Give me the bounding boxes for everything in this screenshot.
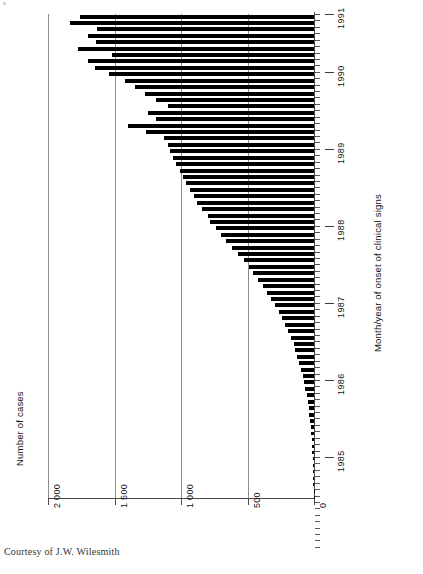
bar <box>297 355 314 359</box>
month-tick <box>315 27 320 28</box>
bar <box>267 291 314 295</box>
value-tick-2000 <box>48 499 49 505</box>
bar <box>295 348 314 352</box>
month-tick <box>315 40 320 41</box>
month-tick <box>315 104 320 105</box>
month-tick <box>315 386 320 387</box>
month-tick <box>315 200 320 201</box>
bar <box>168 104 314 108</box>
month-tick <box>315 33 320 34</box>
month-tick <box>315 438 320 439</box>
bar <box>313 483 314 486</box>
month-tick <box>315 316 320 317</box>
month-tick <box>315 483 320 484</box>
month-tick <box>315 451 320 452</box>
bar <box>95 66 314 70</box>
bar <box>170 149 314 153</box>
bar <box>253 271 314 275</box>
year-mark-1990 <box>325 72 334 73</box>
value-tick-label-500: 500 <box>252 492 262 508</box>
year-mark-1985 <box>325 457 334 458</box>
month-tick <box>315 393 320 394</box>
month-tick <box>315 534 320 535</box>
month-tick <box>315 296 320 297</box>
month-tick <box>315 175 320 176</box>
month-tick <box>315 521 320 522</box>
bar <box>312 445 314 448</box>
month-tick <box>315 20 320 21</box>
year-label-1991: 1991 <box>336 7 346 29</box>
bar <box>194 194 314 198</box>
bar <box>238 252 314 256</box>
month-tick <box>315 46 320 47</box>
month-tick <box>315 425 320 426</box>
month-tick <box>315 78 320 79</box>
year-label-1990: 1990 <box>336 65 346 87</box>
bar <box>294 342 314 346</box>
month-tick <box>315 181 320 182</box>
bar <box>208 214 314 218</box>
month-tick <box>315 380 320 381</box>
gridline-1500 <box>115 14 116 498</box>
bar <box>164 136 314 140</box>
bar <box>311 432 314 435</box>
bar <box>313 464 314 467</box>
month-tick <box>315 476 320 477</box>
month-tick <box>315 496 320 497</box>
month-tick <box>315 290 320 291</box>
bar <box>125 79 314 83</box>
month-tick <box>315 412 320 413</box>
bar <box>190 188 314 192</box>
month-tick <box>315 515 320 516</box>
month-tick <box>315 252 320 253</box>
bar <box>271 297 314 301</box>
month-tick <box>315 239 320 240</box>
bar <box>312 451 314 454</box>
year-label-1988: 1988 <box>336 219 346 241</box>
month-tick <box>315 502 320 503</box>
month-tick <box>315 264 320 265</box>
month-tick <box>315 508 320 509</box>
bar <box>310 419 314 423</box>
bar <box>146 130 314 134</box>
month-tick <box>315 245 320 246</box>
bar <box>109 72 314 76</box>
month-tick <box>315 117 320 118</box>
month-tick <box>315 399 320 400</box>
bar <box>263 284 314 288</box>
bar <box>80 15 314 19</box>
bar <box>279 310 314 314</box>
bar <box>216 226 314 230</box>
figure-bse-epidemic-curve: Number of cases Month/year of onset of c… <box>0 0 423 574</box>
bar <box>148 111 314 115</box>
month-tick <box>315 406 320 407</box>
month-tick <box>315 547 320 548</box>
month-tick <box>315 277 320 278</box>
bar <box>97 27 314 31</box>
month-tick <box>315 418 320 419</box>
bar <box>221 233 314 237</box>
year-mark-1991 <box>325 14 334 15</box>
year-mark-1986 <box>325 380 334 381</box>
bar <box>249 265 314 269</box>
year-mark-1987 <box>325 303 334 304</box>
value-tick-label-1000: 1 000 <box>185 484 195 508</box>
month-tick <box>315 72 320 73</box>
month-tick <box>315 85 320 86</box>
category-axis-label: Month/year of onset of clinical signs <box>372 194 383 352</box>
value-tick-label-2000: 2 000 <box>52 484 62 508</box>
month-tick <box>315 444 320 445</box>
bar <box>312 438 314 441</box>
month-tick <box>315 271 320 272</box>
month-tick <box>315 219 320 220</box>
bar <box>282 316 314 320</box>
bar <box>244 258 314 262</box>
year-mark-1988 <box>325 226 334 227</box>
month-tick <box>315 322 320 323</box>
month-tick <box>315 168 320 169</box>
month-tick <box>315 284 320 285</box>
month-tick <box>315 232 320 233</box>
month-tick <box>315 354 320 355</box>
bar <box>288 329 314 333</box>
bar <box>70 21 314 25</box>
